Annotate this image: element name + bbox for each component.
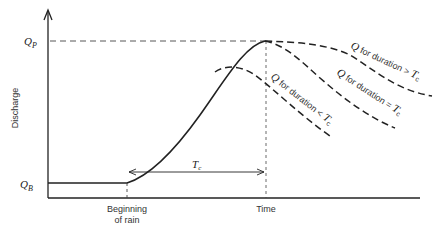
y-axis-label: Discharge xyxy=(10,88,20,129)
curve-label-less: Q for duration < Tc xyxy=(268,70,336,127)
q-peak-label: QP xyxy=(24,35,37,50)
hydrograph-diagram: Discharge QP QB Tc Beginning of rain Tim… xyxy=(0,0,444,231)
time-label: Time xyxy=(256,204,276,214)
rain-label-line1: Beginning xyxy=(107,204,147,214)
curve-label-greater: Q for duration > Tc xyxy=(349,39,424,83)
curve-label-equal: Q for duration = Tc xyxy=(334,66,405,118)
y-axis xyxy=(44,10,52,198)
rain-label-line2: of rain xyxy=(114,215,139,225)
q-base-label: QB xyxy=(20,178,33,193)
tc-label: Tc xyxy=(192,158,202,172)
rising-limb-curve xyxy=(48,41,265,183)
